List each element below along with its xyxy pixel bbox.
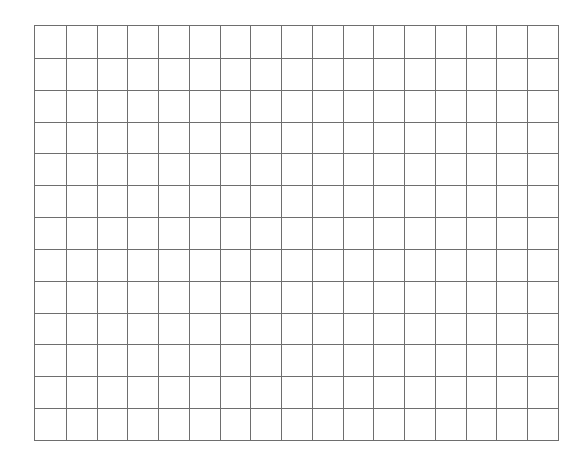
- grid-vertical-line: [158, 26, 159, 440]
- grid-vertical-line: [404, 26, 405, 440]
- grid-vertical-line: [373, 26, 374, 440]
- grid-paper: [34, 25, 559, 441]
- grid-horizontal-line: [35, 376, 558, 377]
- grid-horizontal-line: [35, 281, 558, 282]
- grid-vertical-line: [435, 26, 436, 440]
- grid-horizontal-line: [35, 185, 558, 186]
- grid-vertical-line: [281, 26, 282, 440]
- grid-vertical-line: [66, 26, 67, 440]
- grid-horizontal-line: [35, 344, 558, 345]
- grid-horizontal-line: [35, 408, 558, 409]
- grid-vertical-line: [466, 26, 467, 440]
- grid-vertical-line: [250, 26, 251, 440]
- grid-vertical-line: [343, 26, 344, 440]
- grid-vertical-line: [312, 26, 313, 440]
- grid-horizontal-line: [35, 90, 558, 91]
- grid-vertical-line: [220, 26, 221, 440]
- grid-horizontal-line: [35, 217, 558, 218]
- grid-vertical-line: [127, 26, 128, 440]
- grid-horizontal-line: [35, 122, 558, 123]
- grid-horizontal-line: [35, 249, 558, 250]
- grid-vertical-line: [496, 26, 497, 440]
- grid-horizontal-line: [35, 313, 558, 314]
- grid-vertical-line: [189, 26, 190, 440]
- grid-vertical-line: [97, 26, 98, 440]
- canvas: [0, 0, 588, 466]
- grid-horizontal-line: [35, 153, 558, 154]
- grid-vertical-line: [527, 26, 528, 440]
- grid-horizontal-line: [35, 58, 558, 59]
